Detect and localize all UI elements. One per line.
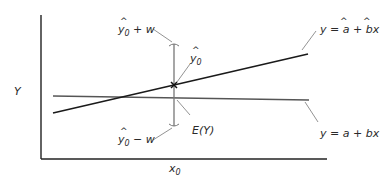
prediction-hat-icon: ^ <box>192 45 200 55</box>
leader-lower <box>153 128 172 140</box>
y-axis-label: Y <box>14 85 22 98</box>
leader-fitted <box>302 31 316 50</box>
true-line-label: y = a + bx <box>319 127 380 140</box>
expectation-label: E(Y) <box>192 124 214 137</box>
leader-expectation <box>177 100 190 115</box>
leader-upper <box>153 29 172 42</box>
leader-yhat <box>177 64 190 82</box>
fitted-a-hat-icon: ^ <box>340 16 348 26</box>
regression-prediction-diagram: Y y0 + w ^ y0 ^ y0 − w ^ E(Y) y = a + bx… <box>0 0 382 183</box>
true-regression-line <box>53 96 309 100</box>
upper-hat-icon: ^ <box>120 16 128 26</box>
lower-hat-icon: ^ <box>120 126 128 136</box>
fitted-line-label: y = a + bx <box>319 23 380 36</box>
fitted-b-hat-icon: ^ <box>363 16 371 26</box>
x-tick-label: x0 <box>168 162 181 177</box>
leader-true <box>305 102 318 122</box>
